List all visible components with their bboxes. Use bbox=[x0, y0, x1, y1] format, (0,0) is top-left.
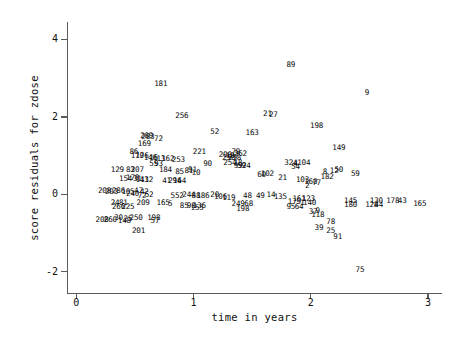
data-point-label: 5 bbox=[168, 201, 172, 209]
data-point-label: 49 bbox=[256, 192, 265, 200]
data-point-label: 41 bbox=[162, 177, 171, 185]
data-point-label: 21 bbox=[278, 174, 287, 182]
data-point-label: 48 bbox=[243, 192, 252, 200]
data-point-label: 118 bbox=[311, 211, 324, 219]
y-tick-mark bbox=[61, 271, 67, 272]
data-point-label: 64 bbox=[295, 204, 304, 212]
data-point-label: 89 bbox=[286, 61, 295, 69]
data-point-label: 39 bbox=[315, 225, 324, 233]
data-point-label: 85 bbox=[175, 168, 184, 176]
x-tick-label: 2 bbox=[299, 297, 323, 308]
y-tick-label: 4 bbox=[30, 33, 58, 44]
data-point-label: 148 bbox=[118, 218, 131, 226]
data-point-label: 52 bbox=[210, 128, 219, 136]
data-point-label: 221 bbox=[193, 149, 206, 157]
data-point-label: 140 bbox=[303, 199, 316, 207]
data-point-label: 164 bbox=[173, 177, 186, 185]
data-point-label: 253 bbox=[172, 156, 185, 164]
data-point-label: 91 bbox=[333, 233, 342, 241]
x-tick-label: 1 bbox=[182, 297, 206, 308]
data-point-label: 10 bbox=[192, 169, 201, 177]
data-point-label: 135 bbox=[274, 193, 287, 201]
y-axis-line bbox=[67, 22, 68, 294]
data-point-label: 181 bbox=[154, 80, 167, 88]
data-point-label: 165 bbox=[413, 201, 426, 209]
x-tick-label: 0 bbox=[64, 297, 88, 308]
data-point-label: 59 bbox=[351, 170, 360, 178]
data-point-label: 9 bbox=[365, 89, 369, 97]
y-tick-mark bbox=[61, 116, 67, 117]
data-point-label: 184 bbox=[159, 166, 172, 174]
data-point-label: 44 bbox=[374, 201, 383, 209]
x-axis-line bbox=[67, 293, 442, 294]
data-point-label: 149 bbox=[332, 144, 345, 152]
scatter-plot: score residuals for zdose time in years … bbox=[0, 0, 452, 342]
data-point-label: 129 bbox=[111, 166, 124, 174]
data-point-label: 209 bbox=[137, 199, 150, 207]
y-tick-label: 0 bbox=[30, 188, 58, 199]
data-point-label: 24 bbox=[242, 163, 251, 171]
data-point-label: 43 bbox=[398, 197, 407, 205]
data-point-label: 201 bbox=[132, 227, 145, 235]
data-point-label: 163 bbox=[246, 129, 259, 137]
x-axis-title: time in years bbox=[67, 311, 442, 323]
data-point-label: 57 bbox=[151, 217, 160, 225]
data-point-label: 60 bbox=[257, 171, 266, 179]
data-point-label: 256 bbox=[175, 112, 188, 120]
data-point-label: 78 bbox=[326, 218, 335, 226]
y-tick-mark bbox=[61, 194, 67, 195]
data-point-label: 54 bbox=[291, 163, 300, 171]
y-tick-label: -2 bbox=[30, 266, 58, 277]
y-tick-label: 2 bbox=[30, 111, 58, 122]
y-tick-mark bbox=[61, 39, 67, 40]
data-point-label: 75 bbox=[356, 266, 365, 274]
x-tick-label: 3 bbox=[416, 297, 440, 308]
data-point-label: 72 bbox=[154, 135, 163, 143]
data-point-label: 169 bbox=[138, 140, 151, 148]
data-point-label: 2 bbox=[305, 182, 309, 190]
data-point-label: 250 bbox=[130, 214, 143, 222]
data-point-label: 155 bbox=[191, 204, 204, 212]
data-point-label: 182 bbox=[321, 173, 334, 181]
data-point-label: 225 bbox=[121, 204, 134, 212]
data-point-label: 198 bbox=[310, 122, 323, 130]
data-point-label: 27 bbox=[269, 111, 278, 119]
data-point-label: 186 bbox=[196, 192, 209, 200]
data-point-label: 50 bbox=[335, 166, 344, 174]
data-point-label: 180 bbox=[344, 201, 357, 209]
y-axis-title: score residuals for zdose bbox=[28, 43, 40, 273]
data-point-label: 198 bbox=[236, 205, 249, 213]
data-point-label: 90 bbox=[203, 160, 212, 168]
data-point-label: 112 bbox=[140, 177, 153, 185]
